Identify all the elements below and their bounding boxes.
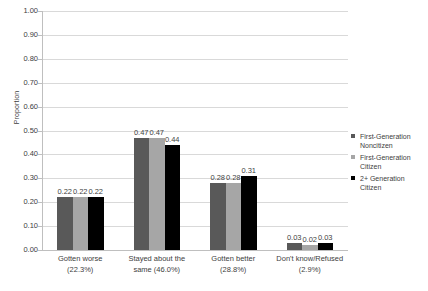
- bar-value-label: 0.31: [237, 166, 261, 175]
- bar: [241, 176, 257, 250]
- legend-item[interactable]: First-GenerationNoncitizen: [351, 132, 428, 150]
- legend-swatch-icon: [351, 134, 355, 138]
- y-tick-label: 0.00: [4, 246, 38, 254]
- y-tick-label: 0.10: [4, 222, 38, 230]
- legend-swatch-icon: [351, 155, 355, 159]
- legend-label-line1: First-Generation: [360, 153, 428, 162]
- y-tick-label: 0.30: [4, 174, 38, 182]
- bar: [302, 245, 318, 250]
- bar: [57, 197, 73, 250]
- bar: [210, 183, 226, 250]
- bar: [318, 243, 334, 250]
- y-tick-label: 1.00: [4, 7, 38, 15]
- bar-group: 0.280.280.31: [195, 11, 272, 250]
- bar: [73, 197, 89, 250]
- bar: [226, 183, 242, 250]
- y-axis-ticks: 1.000.900.800.700.600.500.400.300.200.10…: [0, 0, 38, 291]
- x-category-line: (2.9%): [264, 264, 357, 275]
- x-category-line: Don't know/Refused: [264, 253, 357, 264]
- y-tick-label: 0.20: [4, 198, 38, 206]
- legend-label-line2: Citizen: [360, 183, 428, 192]
- bar-value-label: 0.03: [314, 233, 338, 242]
- bar: [165, 145, 181, 250]
- gridline: [42, 250, 348, 251]
- legend-label-line1: First-Generation: [360, 132, 428, 141]
- y-tick-label: 0.60: [4, 103, 38, 111]
- y-tick-label: 0.50: [4, 127, 38, 135]
- x-category-label: Don't know/Refused(2.9%): [264, 253, 357, 275]
- legend-item[interactable]: First-GenerationCitizen: [351, 153, 428, 171]
- legend-label-line2: Noncitizen: [360, 141, 428, 150]
- y-tick-label: 0.40: [4, 150, 38, 158]
- bar: [88, 197, 104, 250]
- legend-item[interactable]: 2+ GenerationCitizen: [351, 174, 428, 192]
- bar: [149, 138, 165, 250]
- y-tick-label: 0.90: [4, 31, 38, 39]
- bar-chart: Proportion 1.000.900.800.700.600.500.400…: [0, 0, 428, 291]
- bar-value-label: 0.44: [161, 135, 185, 144]
- bars-layer: 0.220.220.220.470.470.440.280.280.310.03…: [42, 11, 348, 250]
- bar-group: 0.220.220.22: [42, 11, 119, 250]
- bar-group: 0.030.020.03: [272, 11, 349, 250]
- bar: [134, 138, 150, 250]
- legend-swatch-icon: [351, 176, 355, 180]
- legend-label-line2: Citizen: [360, 162, 428, 171]
- y-tick-label: 0.80: [4, 55, 38, 63]
- chart-legend: First-GenerationNoncitizenFirst-Generati…: [351, 132, 428, 195]
- bar-group: 0.470.470.44: [119, 11, 196, 250]
- legend-label-line1: 2+ Generation: [360, 174, 428, 183]
- x-axis-categories: Gotten worse(22.3%)Stayed about thesame …: [42, 253, 348, 291]
- bar-value-label: 0.22: [84, 187, 108, 196]
- y-tick-label: 0.70: [4, 79, 38, 87]
